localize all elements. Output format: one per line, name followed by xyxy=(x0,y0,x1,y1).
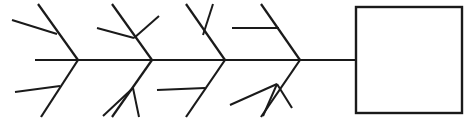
rib-group-4-upper-rib xyxy=(261,4,300,60)
fishbone-canvas xyxy=(0,0,468,124)
rib-group-2-upper-twig-1 xyxy=(97,28,134,38)
rib-group-4-lower-twig-2 xyxy=(277,84,292,108)
rib-group-2-upper-twig-2 xyxy=(134,16,159,38)
rib-group-3-upper-twig-1 xyxy=(203,4,213,35)
rib-group-3-upper-rib xyxy=(186,4,225,60)
rib-group-2-lower-twig-2 xyxy=(133,88,139,117)
rib-group-2-upper-rib xyxy=(112,4,152,60)
rib-group-3-lower-twig-1 xyxy=(157,88,205,90)
rib-group-2-lower-twig-1 xyxy=(103,88,133,116)
fishbone-diagram xyxy=(0,0,468,124)
effect-head-box[interactable] xyxy=(356,7,462,113)
rib-group-1-lower-twig-1 xyxy=(15,86,60,92)
rib-group-1-upper-rib xyxy=(38,4,78,60)
